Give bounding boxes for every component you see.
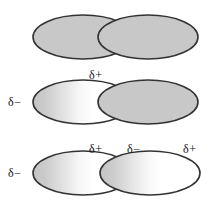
induced-dipole-figure: δ− δ+ δ− δ+ δ− δ+	[0, 0, 216, 205]
label-row2-left-negative: δ−	[8, 96, 21, 108]
ellipse-dipole-right	[100, 151, 200, 195]
row-two-induced-dipoles	[33, 151, 200, 195]
label-row3-mid-positive: δ+	[89, 143, 102, 155]
ellipse-induced-uniform-right	[98, 80, 198, 124]
label-row3-left-negative: δ−	[8, 167, 21, 179]
label-row2-top-positive: δ+	[89, 69, 102, 81]
label-row3-mid-negative: δ−	[127, 143, 140, 155]
ellipse-nonpolar-right	[98, 15, 198, 59]
label-row3-right-positive: δ+	[183, 143, 196, 155]
row-nonpolar-pair	[33, 15, 198, 59]
row-one-induced-dipole	[33, 80, 198, 124]
ellipse-canvas	[0, 0, 216, 205]
